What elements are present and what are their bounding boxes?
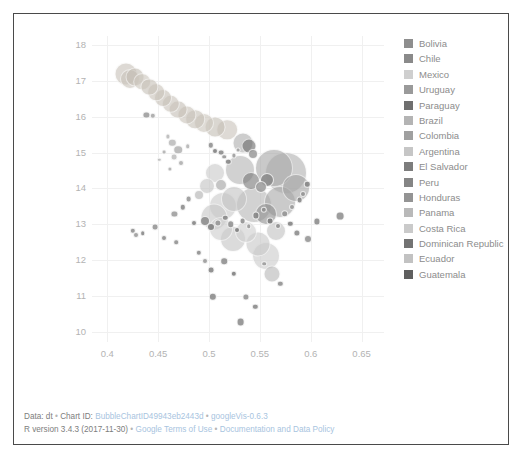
bubble-point[interactable]	[178, 160, 184, 166]
plot-area[interactable]: 1011121314151617180.40.450.50.550.60.65	[92, 36, 384, 342]
footer-library-link[interactable]: googleVis-0.6.3	[211, 412, 268, 421]
bubble-point[interactable]	[277, 280, 283, 286]
bubble-point[interactable]	[242, 293, 249, 300]
y-axis-tick-label: 11	[76, 291, 86, 301]
bubble-point[interactable]	[167, 166, 172, 171]
legend-color-swatch-icon	[404, 270, 413, 279]
y-axis-tick-label: 12	[75, 255, 86, 265]
legend-item[interactable]: Bolivia	[404, 38, 504, 49]
bubble-point[interactable]	[152, 224, 159, 231]
bubble-point[interactable]	[161, 235, 167, 241]
bubble-point[interactable]	[209, 293, 217, 301]
bubble-point[interactable]	[202, 258, 208, 264]
bubble-point[interactable]	[255, 181, 267, 193]
gridline-horizontal	[92, 117, 384, 118]
bubble-point[interactable]	[171, 210, 178, 217]
x-axis-tick-label: 0.65	[352, 349, 371, 359]
bubble-point[interactable]	[336, 212, 345, 221]
legend-item[interactable]: Brazil	[404, 115, 504, 126]
bubble-point[interactable]	[194, 190, 204, 200]
legend-item-label: Ecuador	[419, 253, 454, 264]
bubble-point[interactable]	[227, 221, 235, 229]
bubble-point[interactable]	[133, 232, 139, 238]
bubble-point[interactable]	[293, 230, 300, 237]
legend-item[interactable]: Honduras	[404, 192, 504, 203]
legend-item[interactable]: Paraguay	[404, 100, 504, 111]
bubble-point[interactable]	[252, 304, 258, 310]
bubble-point[interactable]	[221, 186, 247, 212]
bubble-point[interactable]	[234, 227, 240, 233]
bubble-point[interactable]	[287, 220, 293, 226]
bubble-point[interactable]	[267, 218, 274, 225]
bubble-point[interactable]	[304, 235, 312, 243]
bubble-point[interactable]	[185, 143, 191, 149]
bubble-point[interactable]	[289, 204, 295, 210]
legend-color-swatch-icon	[404, 208, 413, 217]
bubble-point[interactable]	[246, 223, 252, 229]
bubble-point[interactable]	[207, 223, 215, 231]
y-axis-tick-label: 17	[75, 76, 86, 86]
legend-item[interactable]: Mexico	[404, 69, 504, 80]
bubble-point[interactable]	[236, 147, 241, 152]
bubble-point[interactable]	[221, 154, 227, 160]
legend-item[interactable]: Guatemala	[404, 269, 504, 280]
legend-item[interactable]: Panama	[404, 207, 504, 218]
y-axis-tick-label: 16	[75, 112, 86, 122]
bubble-point[interactable]	[220, 257, 228, 265]
bubble-point[interactable]	[174, 239, 180, 245]
bubble-point[interactable]	[281, 210, 289, 218]
bubble-point[interactable]	[212, 148, 218, 154]
legend-item-label: Brazil	[419, 115, 443, 126]
legend-color-swatch-icon	[404, 193, 413, 202]
bubble-point[interactable]	[300, 191, 306, 197]
legend-item-label: Honduras	[419, 192, 460, 203]
legend-item-label: Dominican Republic	[419, 238, 503, 249]
footer-chart-id: BubbleChartID49943eb2443d	[95, 412, 203, 421]
bubble-point[interactable]	[162, 149, 167, 154]
footer-docs-link[interactable]: Documentation and Data Policy	[220, 425, 335, 434]
bubble-point[interactable]	[215, 179, 227, 191]
bubble-point[interactable]	[239, 217, 246, 224]
footer-separator: •	[130, 425, 133, 434]
legend-item[interactable]: Uruguay	[404, 84, 504, 95]
bubble-point[interactable]	[180, 204, 186, 210]
bubble-point[interactable]	[170, 153, 177, 160]
legend-item[interactable]: Costa Rica	[404, 223, 504, 234]
legend-item[interactable]: Peru	[404, 177, 504, 188]
bubble-point[interactable]	[196, 250, 202, 256]
y-axis-tick-label: 18	[75, 40, 86, 50]
legend-item[interactable]: Dominican Republic	[404, 238, 504, 249]
legend-item[interactable]: Argentina	[404, 146, 504, 157]
bubble-point[interactable]	[236, 318, 245, 327]
legend-item-label: Uruguay	[419, 84, 455, 95]
legend-color-swatch-icon	[404, 254, 413, 263]
bubble-point[interactable]	[262, 261, 268, 267]
legend-item-label: Panama	[419, 207, 454, 218]
legend-item-label: Mexico	[419, 69, 449, 80]
legend-item[interactable]: Ecuador	[404, 253, 504, 264]
footer-line-1: Data: dt • Chart ID: BubbleChartID49943e…	[24, 411, 494, 424]
x-axis-tick-label: 0.45	[149, 349, 168, 359]
bubble-point[interactable]	[275, 223, 281, 229]
bubble-chart-page: 1011121314151617180.40.450.50.550.60.65 …	[0, 0, 522, 470]
chart-footer: Data: dt • Chart ID: BubbleChartID49943e…	[24, 411, 494, 436]
footer-terms-link[interactable]: Google Terms of Use	[136, 425, 213, 434]
y-axis-tick-label: 10	[75, 327, 86, 337]
legend-color-swatch-icon	[404, 54, 413, 63]
gridline-horizontal	[92, 332, 384, 333]
legend-item-label: El Salvador	[419, 161, 468, 172]
bubble-point[interactable]	[157, 158, 161, 162]
bubble-point[interactable]	[140, 230, 146, 236]
legend-color-swatch-icon	[404, 178, 413, 187]
bubble-point[interactable]	[191, 220, 197, 226]
bubble-point[interactable]	[208, 267, 215, 274]
bubble-point[interactable]	[248, 149, 258, 159]
legend-item[interactable]: Colombia	[404, 130, 504, 141]
bubble-point[interactable]	[185, 196, 192, 203]
bubble-point[interactable]	[150, 113, 156, 119]
legend-item[interactable]: Chile	[404, 53, 504, 64]
y-axis-tick-label: 13	[75, 220, 86, 230]
bubble-point[interactable]	[231, 271, 237, 277]
bubble-point[interactable]	[296, 197, 303, 204]
legend-item[interactable]: El Salvador	[404, 161, 504, 172]
